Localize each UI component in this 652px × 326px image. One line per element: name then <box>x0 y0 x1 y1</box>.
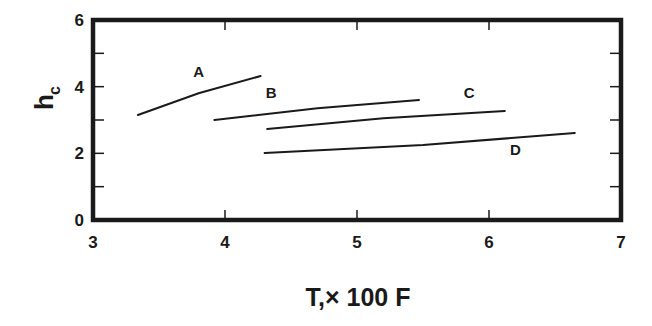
y-axis-title-subscript: c <box>46 86 63 95</box>
series-labels: ABCD <box>193 63 521 158</box>
y-tick-label: 6 <box>75 11 84 30</box>
y-tick-labels: 0246 <box>75 11 85 230</box>
x-tick-label: 5 <box>352 233 361 252</box>
y-axis-title-main: h <box>29 94 59 110</box>
y-tick-label: 2 <box>75 144 84 163</box>
x-axis-title: T,× 100 F <box>306 283 411 311</box>
chart: 34567 0246 ABCD T,× 100 F h c <box>0 0 652 326</box>
series-label-a: A <box>193 63 204 80</box>
x-tick-label: 7 <box>616 233 625 252</box>
series-label-b: B <box>266 84 277 101</box>
y-tick-label: 0 <box>75 211 84 230</box>
y-tick-label: 4 <box>75 78 85 97</box>
x-tick-label: 6 <box>484 233 493 252</box>
x-tick-label: 4 <box>220 233 230 252</box>
series-label-d: D <box>510 141 521 158</box>
x-tick-labels: 34567 <box>88 233 625 252</box>
y-axis-title: h c <box>29 86 63 110</box>
series-line-d <box>265 133 575 153</box>
series-line-c <box>267 111 505 129</box>
series-line-b <box>214 100 419 120</box>
x-tick-label: 3 <box>88 233 97 252</box>
series-line-a <box>138 76 261 115</box>
series-label-c: C <box>464 84 475 101</box>
